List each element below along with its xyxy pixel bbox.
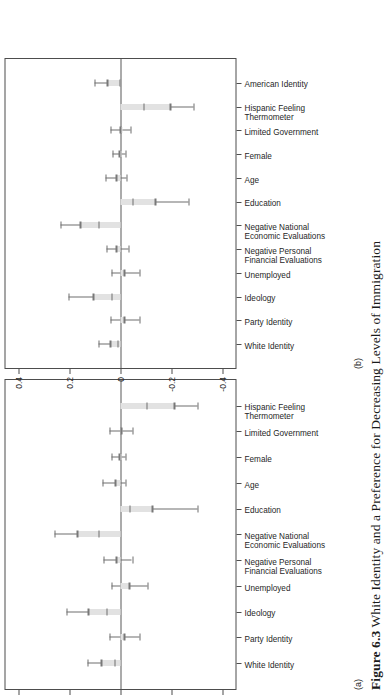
confidence-interval-cap <box>109 634 110 641</box>
figure-caption-text: White Identity and a Preference for Decr… <box>367 241 382 628</box>
confidence-interval-cap <box>139 634 140 641</box>
value-axis-tick <box>120 369 121 374</box>
confidence-interval-cap <box>105 174 106 181</box>
confidence-interval-cap <box>66 608 67 615</box>
confidence-interval-cap <box>111 583 112 590</box>
point-estimate-marker <box>173 402 175 409</box>
category-axis-label: Negative National Economic Evaluations <box>244 223 325 242</box>
confidence-interval-cap <box>130 127 131 134</box>
estimate-bar <box>120 199 155 205</box>
category-axis-label: Ideology <box>244 609 275 618</box>
panel-a-plot-area: 0.40.20-0.2-0.4 <box>4 379 236 690</box>
point-estimate-marker <box>92 293 94 300</box>
confidence-interval-cap <box>60 222 61 229</box>
category-axis-label: Age <box>244 176 259 185</box>
point-estimate-marker <box>76 531 78 538</box>
estimate-bar <box>101 660 120 666</box>
plots-row: 0.40.20-0.2-0.4 White IdentityParty Iden… <box>4 58 378 690</box>
confidence-interval-cap <box>109 428 110 435</box>
confidence-interval-cap <box>106 608 107 615</box>
panel-b: 0.40.20-0.2-0.4 White IdentityParty Iden… <box>4 58 378 369</box>
confidence-interval-cap <box>103 557 104 564</box>
point-estimate-marker <box>169 103 171 110</box>
point-estimate-marker <box>128 583 130 590</box>
category-axis-label: White Identity <box>244 342 294 351</box>
estimate-bar <box>107 80 120 86</box>
confidence-interval-cap <box>106 246 107 253</box>
category-axis-label: Age <box>244 481 259 490</box>
category-axis-label: Limited Government <box>244 128 318 137</box>
confidence-interval-cap <box>110 317 111 324</box>
category-axis-label: Negative National Economic Evaluations <box>244 532 325 551</box>
estimate-bar <box>120 506 152 512</box>
panel-b-letter: (b) <box>352 358 362 369</box>
value-axis-tick <box>69 690 70 695</box>
confidence-interval-cap <box>98 341 99 348</box>
value-axis-tick-label: 0 <box>115 377 125 403</box>
category-axis-label: Negative Personal Financial Evaluations <box>244 558 321 577</box>
point-estimate-marker <box>79 222 81 229</box>
panel-a-letter: (a) <box>352 679 362 690</box>
confidence-interval-cap <box>143 103 144 110</box>
confidence-interval-cap <box>197 505 198 512</box>
figure-page: 0.40.20-0.2-0.4 White IdentityParty Iden… <box>0 0 385 698</box>
panel-b-plot-area: 0.40.20-0.2-0.4 <box>4 58 236 369</box>
confidence-interval-cap <box>87 660 88 667</box>
category-axis-label: Negative Personal Financial Evaluations <box>244 247 321 266</box>
confidence-interval-cap <box>193 103 194 110</box>
value-axis-tick <box>222 690 223 695</box>
category-axis-label: Unemployed <box>244 271 290 280</box>
category-axis-label: Hispanic Feeling Thermometer <box>244 403 305 422</box>
confidence-interval-cap <box>126 174 127 181</box>
point-estimate-marker <box>123 317 125 324</box>
confidence-interval-cap <box>111 269 112 276</box>
point-estimate-marker <box>106 79 108 86</box>
category-axis-label: Unemployed <box>244 584 290 593</box>
panel-a: 0.40.20-0.2-0.4 White IdentityParty Iden… <box>4 379 378 690</box>
panel-b-category-labels: White IdentityParty IdentityIdeologyUnem… <box>236 58 368 369</box>
rotated-figure-container: 0.40.20-0.2-0.4 White IdentityParty Iden… <box>0 0 385 698</box>
value-axis-tick-label: -0.2 <box>166 377 176 403</box>
point-estimate-marker <box>115 174 117 181</box>
point-estimate-marker <box>120 428 122 435</box>
category-axis-label: Ideology <box>244 294 275 303</box>
point-estimate-marker <box>114 480 116 487</box>
value-axis-tick <box>171 690 172 695</box>
value-axis-tick-label: 0.4 <box>13 377 23 403</box>
confidence-interval-cap <box>98 222 99 229</box>
confidence-interval-cap <box>128 246 129 253</box>
confidence-interval-cap <box>132 198 133 205</box>
point-estimate-marker <box>154 198 156 205</box>
confidence-interval-cap <box>139 317 140 324</box>
category-axis-label: Hispanic Feeling Thermometer <box>244 104 305 123</box>
point-estimate-marker <box>115 246 117 253</box>
value-axis-tick-label: 0.2 <box>64 377 74 403</box>
category-axis-label: American Identity <box>244 80 307 89</box>
point-estimate-marker <box>118 454 120 461</box>
point-estimate-marker <box>109 341 111 348</box>
confidence-interval-cap <box>146 402 147 409</box>
confidence-interval-cap <box>119 79 120 86</box>
category-axis-label: White Identity <box>244 661 294 670</box>
confidence-interval-cap <box>54 531 55 538</box>
confidence-interval-cap <box>132 428 133 435</box>
estimate-bar <box>93 294 120 300</box>
category-axis-label: Education <box>244 199 280 208</box>
confidence-interval-cap <box>111 293 112 300</box>
value-axis-tick-label: -0.4 <box>217 377 227 403</box>
figure-caption: Figure 6.3 White Identity and a Preferen… <box>367 30 383 690</box>
point-estimate-marker <box>123 634 125 641</box>
estimate-bar <box>80 222 120 228</box>
confidence-interval-cap <box>132 557 133 564</box>
confidence-interval-cap <box>94 79 95 86</box>
panel-a-category-labels: White IdentityParty IdentityIdeologyUnem… <box>236 379 368 690</box>
confidence-interval-cap <box>112 151 113 158</box>
confidence-interval-cap <box>68 293 69 300</box>
confidence-interval-cap <box>129 505 130 512</box>
point-estimate-marker <box>115 557 117 564</box>
category-axis-label: Female <box>244 455 271 464</box>
category-axis-label: Female <box>244 152 271 161</box>
confidence-interval-cap <box>102 480 103 487</box>
value-axis-tick <box>69 369 70 374</box>
confidence-interval-cap <box>110 127 111 134</box>
